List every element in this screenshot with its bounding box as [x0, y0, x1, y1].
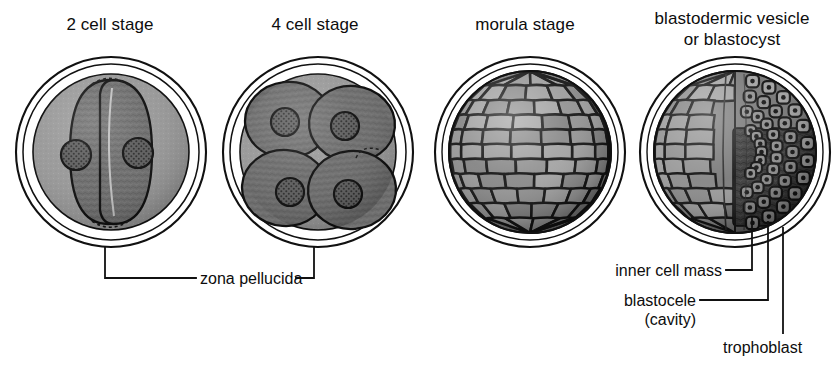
label-blastocele-line1: blastocele [560, 291, 696, 310]
shading-two-cell [33, 74, 189, 230]
label-trophoblast: trophoblast [723, 338, 802, 357]
embryo-blastocyst [640, 57, 830, 247]
embryo-two-cell [16, 57, 206, 247]
embryo-artwork [0, 0, 840, 367]
label-inner-cell-mass-text: inner cell mass [615, 262, 722, 279]
label-inner-cell-mass: inner cell mass [560, 261, 722, 280]
embryo-four-cell [223, 57, 413, 247]
label-blastocele-line2: (cavity) [560, 310, 696, 329]
shading-four-cell [240, 74, 396, 230]
label-trophoblast-text: trophoblast [723, 339, 802, 356]
embryo-development-diagram: 2 cell stage 4 cell stage morula stage b… [0, 0, 840, 367]
leader-zona-left [105, 247, 196, 278]
label-zona-pellucida: zona pellucida [200, 269, 302, 288]
embryo-morula [435, 57, 625, 247]
label-blastocele: blastocele (cavity) [560, 291, 696, 329]
label-zona-pellucida-text: zona pellucida [200, 270, 302, 287]
